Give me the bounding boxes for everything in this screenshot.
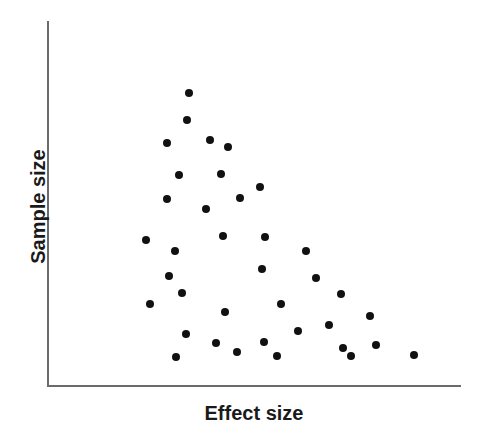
data-point — [410, 351, 418, 359]
data-point — [163, 139, 171, 147]
data-point — [372, 341, 380, 349]
data-point — [202, 205, 210, 213]
data-point — [165, 272, 173, 280]
data-point — [302, 247, 310, 255]
data-point — [236, 194, 244, 202]
data-point — [312, 274, 320, 282]
data-point — [325, 321, 333, 329]
data-point — [146, 300, 154, 308]
data-point — [219, 232, 227, 240]
data-point — [260, 338, 268, 346]
data-point — [233, 348, 241, 356]
data-point — [178, 289, 186, 297]
data-point — [256, 183, 264, 191]
data-point — [277, 300, 285, 308]
data-point — [261, 233, 269, 241]
data-point — [183, 116, 191, 124]
data-point — [224, 143, 232, 151]
data-point — [273, 352, 281, 360]
y-axis-label: Sample size — [27, 107, 50, 307]
data-point — [172, 353, 180, 361]
data-point — [217, 170, 225, 178]
data-point — [182, 330, 190, 338]
data-point — [294, 327, 302, 335]
data-point — [347, 352, 355, 360]
data-point — [221, 308, 229, 316]
data-point — [175, 171, 183, 179]
x-axis-label: Effect size — [47, 402, 461, 425]
data-point — [142, 236, 150, 244]
scatter-plot-area: Sample size Effect size — [0, 0, 481, 438]
data-point — [337, 290, 345, 298]
data-point — [185, 89, 193, 97]
data-point — [212, 339, 220, 347]
x-axis-line — [47, 385, 461, 387]
data-point — [339, 344, 347, 352]
funnel-plot-figure: Sample size Effect size — [0, 0, 481, 438]
data-point — [366, 312, 374, 320]
data-point — [163, 195, 171, 203]
data-point — [258, 265, 266, 273]
data-point — [206, 136, 214, 144]
data-point — [171, 247, 179, 255]
